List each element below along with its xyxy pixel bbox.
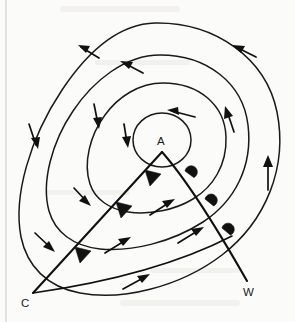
wind-arrow-7 [93,104,102,129]
wind-arrow-13 [105,237,131,253]
wind-arrow-12 [150,199,175,215]
wind-arrow-11 [122,124,131,148]
wind-arrow-15 [123,274,150,289]
wind-arrow-group [29,45,273,289]
wind-arrow-3 [29,124,40,149]
wind-arrow-4 [35,233,55,252]
wind-arrow-5 [263,155,273,190]
figure-canvas: A C W [0,0,295,322]
paper-texture [45,6,240,306]
wind-arrow-10 [167,107,195,117]
cyclone-diagram: A C W [0,0,295,322]
warm-front-line [162,152,247,281]
label-warm-front-end: W [243,286,254,298]
label-center: A [157,135,165,147]
cold-front-line [33,152,162,293]
label-cold-front-end: C [21,297,29,309]
